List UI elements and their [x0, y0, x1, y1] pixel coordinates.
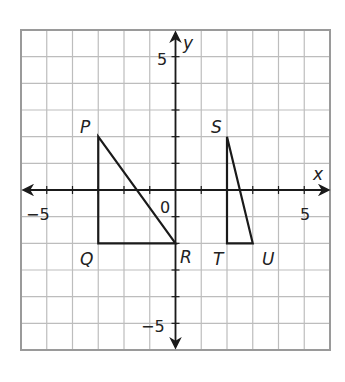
y-tick-label-5: 5: [157, 50, 167, 69]
vertex-label-u: U: [262, 249, 275, 269]
vertex-label-p: P: [80, 117, 91, 137]
vertex-label-t: T: [213, 249, 225, 269]
vertex-label-q: Q: [80, 249, 93, 269]
x-tick-label-5: 5: [300, 205, 310, 224]
y-tick-label-neg5: −5: [141, 317, 165, 336]
x-axis-label: x: [312, 164, 324, 184]
coordinate-plane: x y 0 −5 5 5 −5 P Q R S T U: [0, 0, 345, 382]
vertex-label-r: R: [180, 247, 192, 267]
x-tick-label-neg5: −5: [26, 205, 50, 224]
vertex-label-s: S: [211, 117, 222, 137]
y-axis-label: y: [182, 33, 194, 53]
origin-label: 0: [160, 198, 170, 217]
